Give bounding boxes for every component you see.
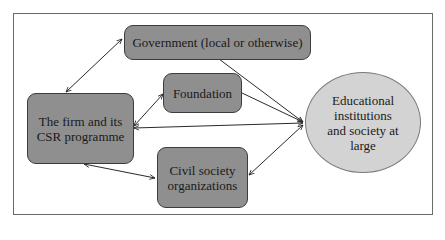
node-firm-label-line2: CSR programme — [37, 129, 125, 144]
node-foundation-label: Foundation — [173, 86, 232, 101]
node-firm: The firm and its CSR programme — [27, 93, 134, 164]
node-education: Educational institutions and society at … — [305, 72, 421, 173]
node-foundation: Foundation — [163, 73, 242, 113]
node-education-label-line1: Educational — [332, 93, 394, 108]
node-civil-society: Civil society organizations — [157, 147, 248, 208]
edge-firm-foundation — [134, 94, 163, 126]
node-government-label: Government (local or otherwise) — [132, 35, 302, 50]
node-education-label-line3: and society at — [327, 123, 398, 138]
node-education-label-line2: institutions — [334, 108, 392, 123]
node-firm-label-line1: The firm and its — [39, 114, 122, 129]
edge-firm-civil-society — [84, 164, 155, 178]
node-education-label-line4: large — [350, 138, 376, 153]
edge-firm-government — [66, 39, 122, 92]
node-civil-society-label-line1: Civil society — [169, 163, 235, 178]
edge-firm-education — [134, 123, 303, 128]
edge-foundation-education — [242, 93, 303, 122]
edge-civil-society-education — [249, 125, 303, 175]
node-civil-society-label-line2: organizations — [168, 178, 238, 193]
node-government: Government (local or otherwise) — [124, 25, 311, 60]
